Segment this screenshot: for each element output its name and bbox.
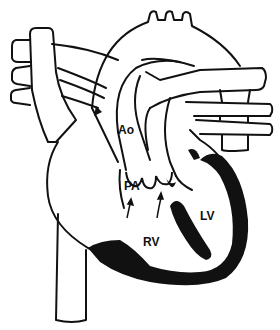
- left-pulmonary-vessels: [11, 40, 118, 108]
- ventricular-myocardium: [88, 106, 248, 285]
- flow-arrows: [127, 193, 163, 218]
- label-aorta: Ao: [118, 124, 134, 136]
- superior-vena-cava: [30, 28, 76, 142]
- inferior-vena-cava: [56, 214, 86, 322]
- arrow-left-icon: [127, 204, 130, 218]
- heart-diagram: [0, 0, 280, 330]
- label-right-ventricle: RV: [143, 236, 159, 248]
- arrow-right-icon: [157, 198, 161, 218]
- label-pulmonary-artery: PA: [124, 180, 140, 192]
- label-left-ventricle: LV: [200, 210, 214, 222]
- right-pulmonary-vessels: [186, 90, 272, 151]
- heart-outline: [47, 130, 245, 280]
